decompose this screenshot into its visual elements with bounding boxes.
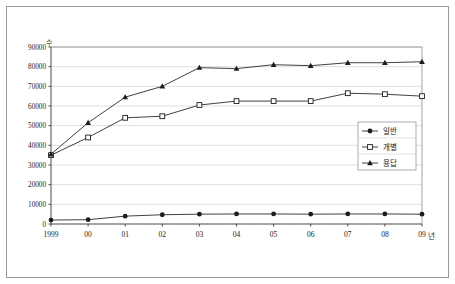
y-axis-tick-label: 50000 bbox=[28, 122, 46, 130]
x-axis-tick-label: 01 bbox=[121, 230, 129, 239]
circle-marker bbox=[345, 212, 350, 217]
square-marker bbox=[160, 114, 165, 119]
series-circle bbox=[49, 212, 425, 223]
circle-marker bbox=[368, 129, 373, 134]
square-marker bbox=[345, 91, 350, 96]
square-marker bbox=[197, 103, 202, 108]
square-marker bbox=[86, 135, 91, 140]
legend-label: 개별 bbox=[383, 142, 397, 152]
circle-marker bbox=[197, 212, 202, 217]
circle-marker bbox=[123, 214, 128, 219]
square-marker bbox=[234, 99, 239, 104]
y-axis-tick-label: 70000 bbox=[28, 83, 46, 91]
x-axis-tick-label: 02 bbox=[159, 230, 167, 239]
line-chart: 0100002000030000400005000060000700008000… bbox=[0, 0, 455, 284]
x-axis-tick-label: 07 bbox=[344, 230, 352, 239]
circle-marker bbox=[49, 218, 54, 223]
plot-wrapper: 0100002000030000400005000060000700008000… bbox=[0, 0, 455, 284]
square-marker bbox=[420, 94, 425, 99]
circle-marker bbox=[308, 212, 313, 217]
triangle-marker bbox=[271, 62, 277, 67]
circle-marker bbox=[271, 212, 276, 217]
y-axis-tick-label: 80000 bbox=[28, 63, 46, 71]
x-axis-tick-label: 04 bbox=[233, 230, 241, 239]
chart-legend: 일반개별용답 bbox=[358, 122, 416, 170]
x-axis-tick-label: 08 bbox=[381, 230, 389, 239]
chart-figure: 0100002000030000400005000060000700008000… bbox=[0, 0, 455, 284]
x-axis-unit-label: 년 bbox=[428, 231, 435, 241]
circle-marker bbox=[160, 212, 165, 217]
x-axis-tick-label: 03 bbox=[196, 230, 204, 239]
y-axis-tick-label: 10000 bbox=[28, 201, 46, 209]
legend-label: 용답 bbox=[383, 158, 397, 168]
x-axis-tick-label: 05 bbox=[270, 230, 278, 239]
y-axis-tick-label: 90000 bbox=[28, 44, 46, 52]
x-axis-tick-label: 06 bbox=[307, 230, 315, 239]
x-axis-tick-label: 09 bbox=[418, 230, 426, 239]
square-marker bbox=[271, 99, 276, 104]
x-axis-tick-labels: 199900010203040506070809 bbox=[44, 224, 427, 239]
y-axis-tick-label: 0 bbox=[42, 221, 46, 229]
legend-label: 일반 bbox=[383, 127, 397, 136]
circle-marker bbox=[234, 212, 239, 217]
triangle-marker bbox=[85, 120, 91, 125]
y-axis-tick-label: 20000 bbox=[28, 181, 46, 189]
square-marker bbox=[308, 99, 313, 104]
x-axis-tick-label: 00 bbox=[84, 230, 92, 239]
y-axis-tick-label: 30000 bbox=[28, 162, 46, 170]
circle-marker bbox=[86, 217, 91, 222]
square-marker bbox=[383, 92, 388, 97]
y-axis-tick-labels: 0100002000030000400005000060000700008000… bbox=[28, 44, 51, 229]
triangle-marker bbox=[197, 65, 203, 70]
y-axis-tick-label: 60000 bbox=[28, 103, 46, 111]
square-marker bbox=[368, 145, 373, 150]
y-axis-tick-label: 40000 bbox=[28, 142, 46, 150]
square-marker bbox=[123, 115, 128, 120]
x-axis-tick-label: 1999 bbox=[44, 230, 59, 239]
circle-marker bbox=[383, 212, 388, 217]
triangle-marker bbox=[159, 83, 165, 88]
y-axis-unit-label: 수 bbox=[46, 39, 53, 47]
circle-marker bbox=[420, 212, 425, 217]
triangle-marker bbox=[419, 59, 425, 64]
